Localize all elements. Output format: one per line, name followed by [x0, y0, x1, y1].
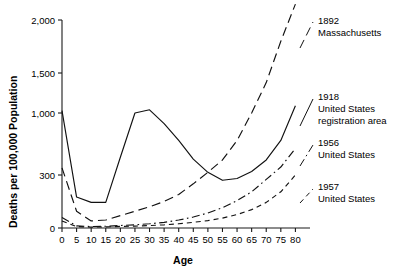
x-tick-label: 60 — [232, 234, 243, 245]
annotation-year-1918: 1918 — [318, 91, 339, 102]
x-tick-label: 75 — [276, 234, 287, 245]
x-tick-label: 55 — [217, 234, 228, 245]
annotation-year-1956: 1956 — [318, 137, 339, 148]
y-axis-title: Deaths per 100,000 Population — [7, 76, 19, 228]
series-line-1956 — [62, 148, 295, 226]
line-chart: Deaths per 100,000 Population Age 03001,… — [0, 0, 400, 267]
y-tick-label: 300 — [39, 170, 55, 181]
annotation-place-1918-1: registration area — [318, 115, 387, 126]
x-tick-label: 15 — [100, 234, 111, 245]
annotation-leader-1957 — [300, 189, 313, 203]
annotation-leader-1892 — [300, 22, 313, 48]
annotation-place-1892-0: Massachusetts — [318, 27, 382, 38]
x-tick-label: 80 — [290, 234, 301, 245]
y-tick-label: 1,000 — [31, 108, 55, 119]
series-lines — [62, 4, 295, 227]
y-tick-label: 1,500 — [31, 68, 55, 79]
x-tick-label: 20 — [115, 234, 126, 245]
annotation-year-1892: 1892 — [318, 15, 339, 26]
annotation-place-1956-0: United States — [318, 149, 375, 160]
x-tick-label: 5 — [74, 234, 79, 245]
chart-container: Deaths per 100,000 Population Age 03001,… — [0, 0, 400, 267]
x-tick-label: 45 — [188, 234, 199, 245]
series-line-1918 — [62, 106, 295, 203]
annotation-place-1957-0: United States — [318, 193, 375, 204]
y-tick-label: 2,000 — [31, 15, 55, 26]
x-tick-label: 65 — [246, 234, 257, 245]
series-line-1957 — [62, 175, 295, 227]
y-tick-label: 0 — [50, 223, 55, 234]
x-tick-label: 35 — [159, 234, 170, 245]
y-axis: 03001,0001,5002,000 — [31, 15, 62, 234]
annotation-leader-1918 — [300, 99, 313, 126]
x-axis-title: Age — [173, 254, 193, 266]
x-axis: 05101520253035404550556065707580 — [59, 228, 310, 245]
x-tick-label: 40 — [173, 234, 184, 245]
x-tick-label: 70 — [261, 234, 272, 245]
x-tick-label: 30 — [144, 234, 155, 245]
x-tick-label: 50 — [203, 234, 214, 245]
x-tick-label: 25 — [130, 234, 141, 245]
x-tick-label: 10 — [86, 234, 97, 245]
series-annotations: 1892Massachusetts1918United Statesregist… — [300, 15, 387, 204]
x-tick-label: 0 — [59, 234, 64, 245]
annotation-leader-1956 — [300, 145, 313, 166]
series-line-1892 — [62, 4, 295, 221]
annotation-year-1957: 1957 — [318, 181, 339, 192]
annotation-place-1918-0: United States — [318, 103, 375, 114]
